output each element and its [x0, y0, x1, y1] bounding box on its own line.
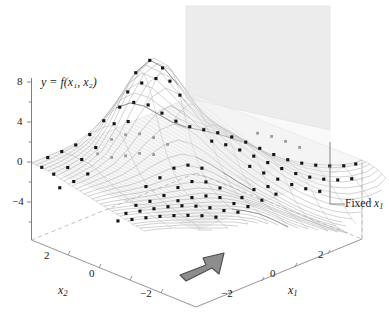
y-tick-label-minus4: −4	[12, 196, 24, 207]
x1-axis-label-sub: 1	[293, 288, 297, 298]
surface-plot-figure: 8 4 0 −4 y = f(x₁, x₂) 2 0 −2 x2 −2 0 2 …	[0, 0, 389, 324]
y-axis-label: y = f(x₁, x₂)	[41, 76, 97, 88]
x2-tick-label-2: 2	[44, 250, 50, 261]
slice-plane-front	[186, 6, 330, 196]
x2-axis-label-sub: 2	[63, 288, 67, 298]
fixed-slice-annotation: Fixed x1	[345, 198, 383, 212]
x1-tick-label-minus2: −2	[221, 288, 233, 299]
fixed-slice-annotation-prefix: Fixed	[345, 197, 374, 209]
x2-tick-label-minus2: −2	[140, 288, 152, 299]
x2-axis-label: x2	[58, 284, 68, 298]
y-tick-label-0: 0	[17, 156, 23, 167]
x1-tick-label-0: 0	[270, 268, 276, 279]
x2-tick-label-0: 0	[89, 268, 95, 279]
x1-tick-label-2: 2	[318, 249, 324, 260]
plot-canvas	[0, 0, 389, 324]
slice-direction-arrow	[180, 253, 224, 281]
y-tick-label-4: 4	[17, 116, 23, 127]
fixed-slice-annotation-sub: 1	[379, 202, 383, 211]
x1-axis-label: x1	[288, 284, 298, 298]
y-axis-label-text: y = f(x₁, x₂)	[41, 75, 97, 89]
y-tick-label-8: 8	[17, 76, 23, 87]
